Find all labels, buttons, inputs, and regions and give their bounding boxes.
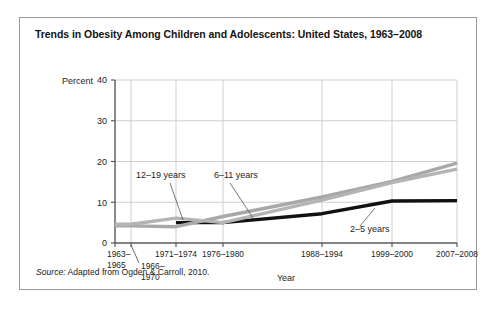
x-tick-label: 1976–1980 (202, 249, 244, 259)
y-tick-label: 0 (102, 238, 107, 248)
y-tick-label: 30 (97, 116, 107, 126)
x-tick-label: 1988–1994 (301, 249, 343, 259)
y-tick-label: 10 (97, 198, 107, 208)
x-tick-label: 2007–2008 (436, 249, 478, 259)
source-label: Source: (36, 267, 66, 277)
series-line (176, 201, 457, 223)
y-tick-label: 40 (97, 75, 107, 85)
x-tick-leader-line (131, 245, 139, 263)
y-axis-label: Percent (62, 76, 94, 86)
source-text: Adapted from Ogden & Carroll, 2010. (66, 267, 210, 277)
x-axis-label: Year (277, 273, 295, 283)
x-tick-label: 1963– (107, 249, 131, 259)
x-tick-label: 1971–1974 (155, 249, 197, 259)
chart-figure-panel: Trends in Obesity Among Children and Ado… (19, 17, 477, 290)
series-annotation-label: 12–19 years (136, 170, 186, 180)
x-tick-label: 1999–2000 (371, 249, 413, 259)
chart-plot-area: 010203040Percent1963–19651966–19701971–1… (20, 18, 478, 291)
y-tick-label: 20 (97, 157, 107, 167)
source-note: Source: Adapted from Ogden & Carroll, 20… (36, 267, 209, 277)
annotation-leader-line (170, 183, 183, 220)
series-annotation-label: 2–5 years (350, 224, 390, 234)
series-annotation-label: 6–11 years (214, 170, 258, 180)
